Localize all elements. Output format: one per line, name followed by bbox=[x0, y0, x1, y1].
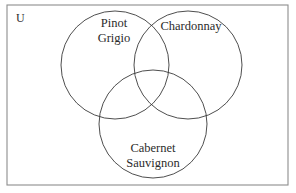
venn-diagram-figure: U Pinot Grigio Chardonnay Cabernet Sauvi… bbox=[0, 0, 296, 193]
set-label-cabernet-sauvignon-line-2: Sauvignon bbox=[126, 156, 180, 170]
set-label-cabernet-sauvignon-line-1: Cabernet bbox=[130, 141, 176, 155]
set-label-pinot-grigio-line-1: Pinot bbox=[101, 16, 128, 30]
venn-diagram-canvas: U Pinot Grigio Chardonnay Cabernet Sauvi… bbox=[0, 0, 296, 193]
set-label-pinot-grigio-line-2: Grigio bbox=[98, 31, 131, 45]
universe-label: U bbox=[16, 11, 25, 25]
set-label-chardonnay-line-1: Chardonnay bbox=[160, 19, 222, 33]
